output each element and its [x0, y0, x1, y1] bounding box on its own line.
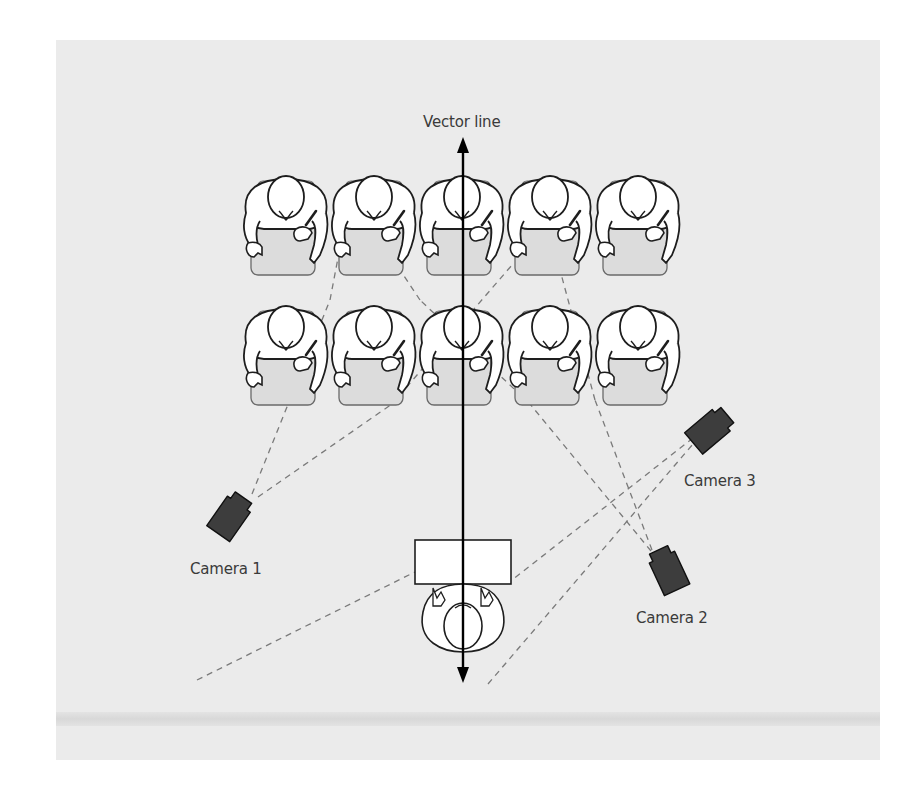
student-at-desk: [244, 176, 328, 275]
sight-line: [530, 404, 651, 551]
arrow-down-icon: [457, 667, 469, 683]
sight-line: [197, 572, 415, 680]
head: [620, 176, 656, 218]
camera-2-label: Camera 2: [636, 609, 708, 627]
sight-line: [258, 404, 392, 497]
student-at-desk: [420, 306, 504, 405]
student-at-desk: [332, 306, 416, 405]
arrow-up-icon: [457, 137, 469, 153]
camera-1-icon: [207, 490, 255, 542]
student-at-desk: [244, 306, 328, 405]
head: [356, 306, 392, 348]
head: [620, 306, 656, 348]
camera-3-label: Camera 3: [684, 472, 756, 490]
camera-3-icon: [685, 404, 737, 454]
student-at-desk: [508, 306, 592, 405]
student-at-desk: [332, 176, 416, 275]
vector-line-label: Vector line: [423, 113, 500, 131]
student-at-desk: [420, 176, 504, 275]
student-grid: [244, 176, 680, 405]
head: [356, 176, 392, 218]
head: [268, 306, 304, 348]
student-at-desk: [596, 306, 680, 405]
sight-line: [595, 400, 652, 550]
head: [532, 306, 568, 348]
head: [268, 176, 304, 218]
student-at-desk: [508, 176, 592, 275]
diagram-canvas: Vector line Camera 1 Camera 2 Camera 3: [0, 0, 923, 809]
camera-1-label: Camera 1: [190, 560, 262, 578]
camera-2-icon: [646, 544, 690, 596]
student-at-desk: [596, 176, 680, 275]
head: [532, 176, 568, 218]
